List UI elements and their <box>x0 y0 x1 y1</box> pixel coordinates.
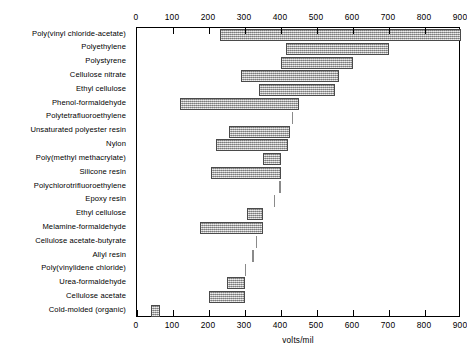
category-label: Nylon <box>106 140 126 148</box>
axis-tick-label: 300 <box>237 12 252 22</box>
axis-tick-top <box>389 28 390 34</box>
bar <box>292 112 293 124</box>
bar <box>263 153 281 165</box>
axis-tick-top <box>245 28 246 34</box>
category-label: Poly(methyl methacrylate) <box>36 154 126 162</box>
bar <box>245 264 246 276</box>
axis-tick-label: 500 <box>309 12 324 22</box>
axis-tick-top <box>209 28 210 34</box>
axis-tick-top <box>353 28 354 34</box>
category-label: Ethyl cellulose <box>76 85 126 93</box>
axis-tick-bottom <box>459 310 460 316</box>
axis-tick-top <box>281 28 282 34</box>
axis-tick-bottom <box>245 310 246 316</box>
axis-tick-bottom <box>281 310 282 316</box>
axis-tick-top <box>173 28 174 34</box>
category-label: Epoxy resin <box>85 195 126 203</box>
axis-tick-label: 0 <box>134 12 139 22</box>
axis-tick-bottom <box>353 310 354 316</box>
bar <box>259 84 335 96</box>
category-label: Cellulose acetate-butyrate <box>35 237 126 245</box>
category-label: Melamine-formaldehyde <box>42 223 126 231</box>
axis-tick-bottom <box>209 310 210 316</box>
category-label: Poly(vinylidene chloride) <box>41 264 126 272</box>
axis-tick-bottom <box>137 310 138 316</box>
axis-tick-label: 500 <box>309 320 324 330</box>
category-label: Silicone resin <box>79 168 126 176</box>
axis-tick-label: 700 <box>381 320 396 330</box>
category-label: Phenol-formaldehyde <box>52 99 126 107</box>
axis-tick-bottom <box>173 310 174 316</box>
bar <box>200 222 263 234</box>
axis-tick-label: 900 <box>453 12 467 22</box>
category-label: Polyethylene <box>81 43 126 51</box>
x-axis-title: volts/mil <box>136 336 460 345</box>
axis-tick-label: 400 <box>273 320 288 330</box>
axis-tick-top <box>425 28 426 34</box>
axis-tick-label: 400 <box>273 12 288 22</box>
bars-container <box>137 28 459 316</box>
axis-tick-label: 300 <box>237 320 252 330</box>
category-label: Polychlorotrifluoroethylene <box>34 182 126 190</box>
bar <box>211 167 281 179</box>
axis-tick-label: 600 <box>345 320 360 330</box>
axis-tick-label: 200 <box>201 12 216 22</box>
bar <box>216 139 288 151</box>
bar <box>180 98 299 110</box>
bar <box>252 250 253 262</box>
axis-tick-label: 700 <box>381 12 396 22</box>
bar <box>227 277 245 289</box>
category-label: Urea-formaldehyde <box>59 278 126 286</box>
top-axis-tick-labels: 0100200300400500600700800900 <box>136 12 460 24</box>
axis-tick-bottom <box>317 310 318 316</box>
category-label: Allyl resin <box>92 251 126 259</box>
bar <box>241 70 338 82</box>
bar <box>279 181 280 193</box>
category-label-column: Poly(vinyl chloride-acetate)Polyethylene… <box>0 27 126 317</box>
bar <box>209 291 245 303</box>
category-label: Poly(vinyl chloride-acetate) <box>32 30 126 38</box>
bar <box>274 195 275 207</box>
axis-tick-label: 800 <box>417 12 432 22</box>
axis-tick-top <box>317 28 318 34</box>
bar <box>281 57 353 69</box>
category-label: Unsaturated polyester resin <box>30 126 126 134</box>
axis-tick-label: 0 <box>134 320 139 330</box>
axis-tick-label: 200 <box>201 320 216 330</box>
axis-tick-label: 100 <box>165 12 180 22</box>
bar <box>256 236 257 248</box>
bar <box>229 126 290 138</box>
bar <box>247 208 263 220</box>
axis-tick-label: 800 <box>417 320 432 330</box>
bar <box>151 305 160 317</box>
axis-tick-bottom <box>389 310 390 316</box>
category-label: Cellulose nitrate <box>70 71 126 79</box>
category-label: Polystyrene <box>85 57 126 65</box>
bar <box>286 43 389 55</box>
bottom-axis-tick-labels: 0100200300400500600700800900 <box>136 320 460 332</box>
category-label: Cellulose acetate <box>66 292 126 300</box>
plot-area <box>136 27 460 317</box>
axis-tick-label: 100 <box>165 320 180 330</box>
category-label: Polytetrafluoroethylene <box>46 112 126 120</box>
axis-tick-bottom <box>425 310 426 316</box>
category-label: Cold-molded (organic) <box>49 306 126 314</box>
category-label: Ethyl cellulose <box>76 209 126 217</box>
axis-tick-label: 600 <box>345 12 360 22</box>
axis-tick-label: 900 <box>453 320 467 330</box>
